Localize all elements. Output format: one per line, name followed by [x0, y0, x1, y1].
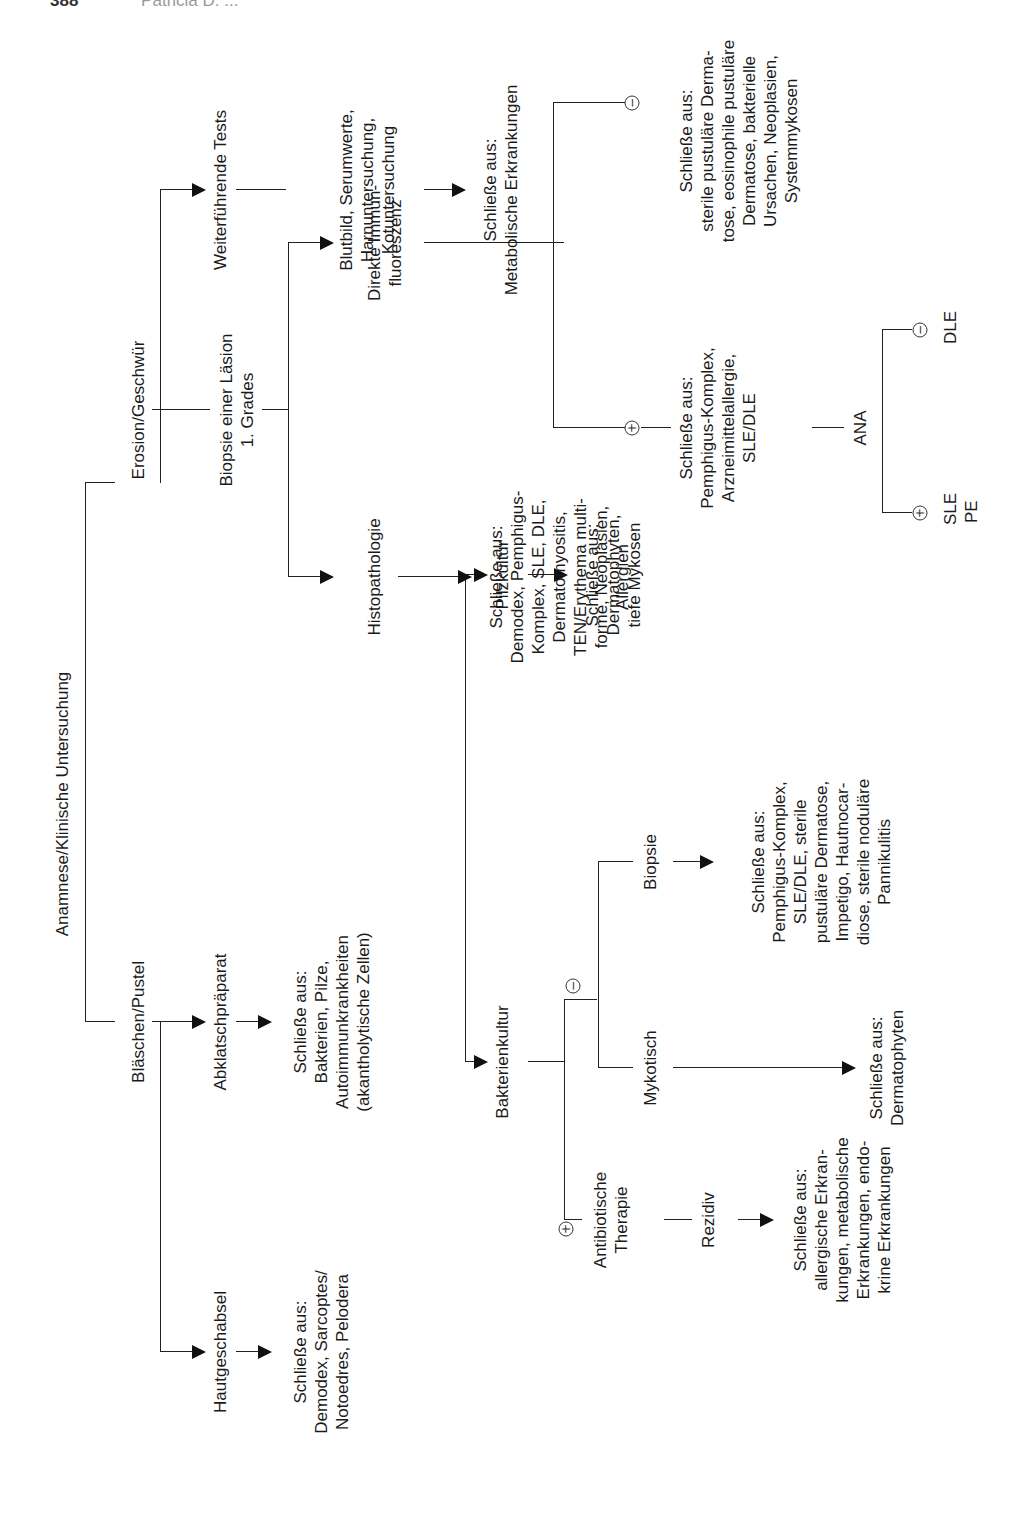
connector	[160, 1021, 195, 1022]
node-blaeschen-pustel: Bläschen/Pustel	[128, 961, 149, 1083]
result-biopsie: Schließe aus: Pemphigus-Komplex, SLE/DLE…	[748, 779, 895, 945]
arrow-icon	[258, 1015, 272, 1029]
connector	[564, 1000, 565, 1220]
result-ana-positiv: SLE PE	[940, 493, 982, 525]
result-abklatschpraeparat: Schließe aus: Bakterien, Pilze, Autoimmu…	[290, 932, 374, 1112]
arrow-icon	[320, 570, 334, 584]
plus-sign-icon: +	[625, 421, 640, 436]
connector	[553, 103, 554, 428]
connector	[288, 576, 324, 577]
connector	[564, 1219, 582, 1220]
plus-sign-icon: +	[559, 1222, 574, 1237]
connector	[160, 1022, 161, 1352]
connector	[812, 427, 844, 428]
minus-sign-icon: −	[566, 979, 581, 994]
connector	[398, 576, 462, 577]
arrow-icon	[760, 1213, 774, 1227]
result-histopathologie: Schließe aus: Demodex, Pemphigus- Komple…	[486, 491, 633, 664]
node-rezidiv: Rezidiv	[698, 1192, 719, 1248]
connector	[598, 862, 599, 1068]
connector	[288, 242, 324, 243]
result-mykotisch: Schließe aus: Dermatophyten	[866, 1010, 908, 1126]
root-node: Anamnese/Klinische Untersuchung	[52, 672, 73, 937]
node-ana: ANA	[850, 411, 871, 446]
arrow-icon	[452, 183, 466, 197]
connector	[465, 575, 466, 1062]
connector	[160, 1351, 195, 1352]
node-histopathologie: Histopathologie	[364, 518, 385, 635]
result-weiterfuehrende-tests: Schließe aus: Metabolische Erkrankungen	[480, 85, 522, 296]
plus-sign-icon: +	[913, 506, 928, 521]
node-weiterfuehrende-tests: Weiterführende Tests	[210, 110, 231, 270]
arrow-icon	[192, 1345, 206, 1359]
connector	[882, 329, 912, 330]
connector	[236, 189, 286, 190]
connector	[664, 1219, 692, 1220]
node-biopsie-laesion: Biopsie einer Läsion 1. Grades	[216, 333, 258, 486]
connector	[152, 1021, 160, 1022]
arrow-icon	[458, 570, 472, 584]
connector	[553, 427, 625, 428]
connector	[564, 999, 597, 1000]
arrow-icon	[192, 1015, 206, 1029]
node-hautgeschabsel: Hautgeschabsel	[210, 1291, 231, 1413]
node-bakterienkultur: Bakterienkultur	[492, 1005, 513, 1118]
connector	[262, 409, 288, 410]
arrow-icon	[842, 1061, 856, 1075]
result-ana-negativ: DLE	[940, 311, 961, 344]
connector	[160, 189, 195, 190]
result-immunfluoreszenz-negativ: Schließe aus: sterile pustuläre Derma- t…	[676, 40, 802, 242]
connector	[528, 1061, 564, 1062]
connector	[673, 861, 703, 862]
node-biopsie: Biopsie	[640, 834, 661, 890]
connector	[85, 482, 115, 483]
connector	[160, 190, 161, 483]
result-antibiotische-therapie: Schließe aus: allergische Erkran- kungen…	[790, 1137, 895, 1302]
diagnostic-flowchart: Anamnese/Klinische Untersuchung Bläschen…	[0, 0, 1029, 1529]
connector	[738, 1219, 762, 1220]
result-immunfluoreszenz-positiv: Schließe aus: Pemphigus-Komplex, Arzneim…	[676, 347, 760, 509]
connector	[152, 409, 210, 410]
connector	[85, 1021, 115, 1022]
node-erosion-geschwuer: Erosion/Geschwür	[128, 341, 149, 480]
arrow-icon	[192, 183, 206, 197]
connector	[598, 1067, 633, 1068]
result-hautgeschabsel: Schließe aus: Demodex, Sarcoptes/ Notoed…	[290, 1270, 353, 1433]
node-mykotisch: Mykotisch	[640, 1030, 661, 1106]
connector	[424, 189, 454, 190]
arrow-icon	[258, 1345, 272, 1359]
node-antibiotische-therapie: Antibiotische Therapie	[590, 1172, 632, 1268]
connector	[85, 482, 86, 1022]
arrow-icon	[700, 855, 714, 869]
connector	[598, 861, 633, 862]
arrow-icon	[474, 1055, 488, 1069]
connector	[882, 512, 912, 513]
minus-sign-icon: −	[913, 323, 928, 338]
arrow-icon	[320, 236, 334, 250]
connector	[641, 427, 671, 428]
node-abklatschpraeparat: Abklatschpräparat	[210, 953, 231, 1090]
connector	[288, 243, 289, 577]
node-labortests: Blutbild, Serumwerte, Harnuntersuchung, …	[336, 109, 399, 271]
connector	[553, 102, 625, 103]
connector	[882, 330, 883, 513]
connector	[673, 1067, 843, 1068]
minus-sign-icon: −	[625, 96, 640, 111]
